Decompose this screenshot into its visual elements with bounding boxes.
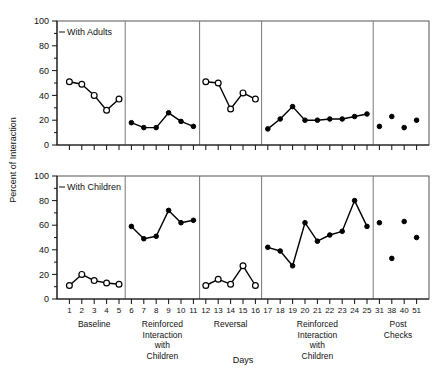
data-point-p1-s0-2: [79, 272, 85, 278]
phase-label-0: Baseline: [78, 319, 111, 329]
x-tick-label-21: 21: [313, 306, 322, 315]
data-point-p0-s2-13: [215, 80, 221, 86]
phase-label-line-2-0: Reversal: [214, 319, 248, 329]
data-point-p1-s3-25: [365, 224, 370, 229]
x-tick-label-25: 25: [363, 306, 372, 315]
data-point-p0-s0-4: [104, 107, 110, 113]
phase-label-line-1-2: with: [154, 340, 170, 350]
data-point-p1-s3-17: [266, 245, 271, 250]
data-point-p1-s4-40: [402, 219, 407, 224]
data-point-p0-s2-16: [253, 96, 259, 102]
x-tick-label-16: 16: [251, 306, 260, 315]
x-tick-label-31: 31: [375, 306, 384, 315]
data-point-p1-s2-16: [253, 283, 259, 289]
x-tick-label-7: 7: [142, 306, 147, 315]
data-point-p0-s1-10: [179, 119, 184, 124]
series-line-p0-s1: [131, 113, 193, 128]
data-point-p0-s4-31: [377, 124, 382, 129]
phase-label-line-3-1: Interaction: [298, 330, 338, 340]
data-point-p0-s1-11: [191, 124, 196, 129]
x-tick-label-22: 22: [325, 306, 334, 315]
data-point-p0-s2-12: [203, 79, 209, 85]
x-tick-label-19: 19: [288, 306, 297, 315]
x-axis-title: Days: [233, 355, 254, 365]
data-point-p1-s0-4: [104, 280, 110, 286]
x-tick-label-51: 51: [412, 306, 421, 315]
x-tick-label-8: 8: [154, 306, 159, 315]
y-tick-label-upper-60: 60: [39, 66, 49, 76]
data-point-p0-s4-40: [402, 125, 407, 130]
x-tick-label-9: 9: [166, 306, 171, 315]
x-tick-label-2: 2: [80, 306, 85, 315]
data-point-p1-s1-11: [191, 218, 196, 223]
y-tick-label-upper-80: 80: [39, 41, 49, 51]
data-point-p0-s2-15: [240, 90, 246, 96]
phase-label-line-3-3: Children: [302, 351, 334, 361]
data-point-p1-s0-3: [91, 278, 97, 284]
data-point-p0-s0-3: [91, 93, 97, 99]
data-point-p1-s0-1: [67, 283, 73, 289]
y-tick-label-lower-40: 40: [39, 245, 49, 255]
panel-with-adults: With Adults: [59, 27, 419, 131]
x-tick-label-12: 12: [201, 306, 210, 315]
data-point-p1-s3-18: [278, 249, 283, 254]
series-line-p1-s1: [131, 210, 193, 238]
panel-label-adults: With Adults: [67, 27, 113, 37]
data-point-p1-s3-23: [340, 229, 345, 234]
panel-with-children: With Children: [59, 182, 419, 288]
data-point-p0-s3-20: [303, 118, 308, 123]
data-point-p0-s3-23: [340, 117, 345, 122]
data-point-p0-s3-18: [278, 117, 283, 122]
x-tick-label-14: 14: [226, 306, 235, 315]
chart-container: 0020204040606080801001001234567891011121…: [0, 0, 446, 371]
x-tick-label-3: 3: [92, 306, 97, 315]
data-point-p1-s2-15: [240, 263, 246, 269]
phase-label-line-3-0: Reinforced: [297, 319, 338, 329]
x-tick-label-10: 10: [177, 306, 186, 315]
phase-label-line-1-0: Reinforced: [142, 319, 183, 329]
y-tick-label-lower-80: 80: [39, 196, 49, 206]
y-tick-label-lower-0: 0: [44, 294, 49, 304]
phase-label-line-4-0: Post: [389, 319, 407, 329]
x-tick-label-6: 6: [129, 306, 134, 315]
x-tick-label-38: 38: [387, 306, 396, 315]
data-point-p1-s2-13: [215, 276, 221, 282]
phase-label-1: ReinforcedInteractionwithChildren: [142, 319, 183, 361]
y-tick-label-upper-20: 20: [39, 115, 49, 125]
data-point-p0-s2-14: [228, 106, 234, 112]
y-axis-title: Percent of Interaction: [8, 117, 18, 203]
x-tick-label-13: 13: [214, 306, 223, 315]
x-tick-label-15: 15: [239, 306, 248, 315]
y-tick-label-lower-60: 60: [39, 220, 49, 230]
data-point-p0-s0-5: [116, 96, 122, 102]
x-tick-label-40: 40: [400, 306, 409, 315]
phase-label-line-0-0: Baseline: [78, 319, 111, 329]
interaction-percent-chart: 0020204040606080801001001234567891011121…: [0, 0, 446, 371]
data-point-p1-s4-31: [377, 220, 382, 225]
y-tick-label-upper-100: 100: [34, 16, 49, 26]
y-tick-label-upper-0: 0: [44, 140, 49, 150]
x-tick-label-4: 4: [104, 306, 109, 315]
phase-label-line-1-1: Interaction: [143, 330, 183, 340]
series-line-p1-s3: [268, 201, 367, 266]
x-tick-label-1: 1: [67, 306, 72, 315]
data-point-p1-s3-20: [303, 220, 308, 225]
data-point-p0-s3-24: [352, 114, 357, 119]
data-point-p1-s1-7: [142, 236, 147, 241]
y-tick-label-lower-100: 100: [34, 171, 49, 181]
y-tick-label-lower-20: 20: [39, 270, 49, 280]
data-point-p1-s3-21: [315, 239, 320, 244]
data-point-p0-s1-9: [166, 111, 171, 116]
data-point-p0-s1-6: [129, 120, 134, 125]
data-point-p0-s1-7: [142, 125, 147, 130]
data-point-p1-s2-12: [203, 283, 209, 289]
x-tick-label-23: 23: [338, 306, 347, 315]
data-point-p1-s3-19: [290, 264, 295, 269]
phase-label-line-4-1: Checks: [384, 330, 412, 340]
x-tick-label-24: 24: [350, 306, 359, 315]
y-tick-label-upper-40: 40: [39, 91, 49, 101]
data-point-p0-s3-25: [365, 112, 370, 117]
data-point-p0-s0-2: [79, 81, 85, 87]
data-point-p0-s3-22: [328, 117, 333, 122]
data-point-p1-s4-51: [414, 235, 419, 240]
